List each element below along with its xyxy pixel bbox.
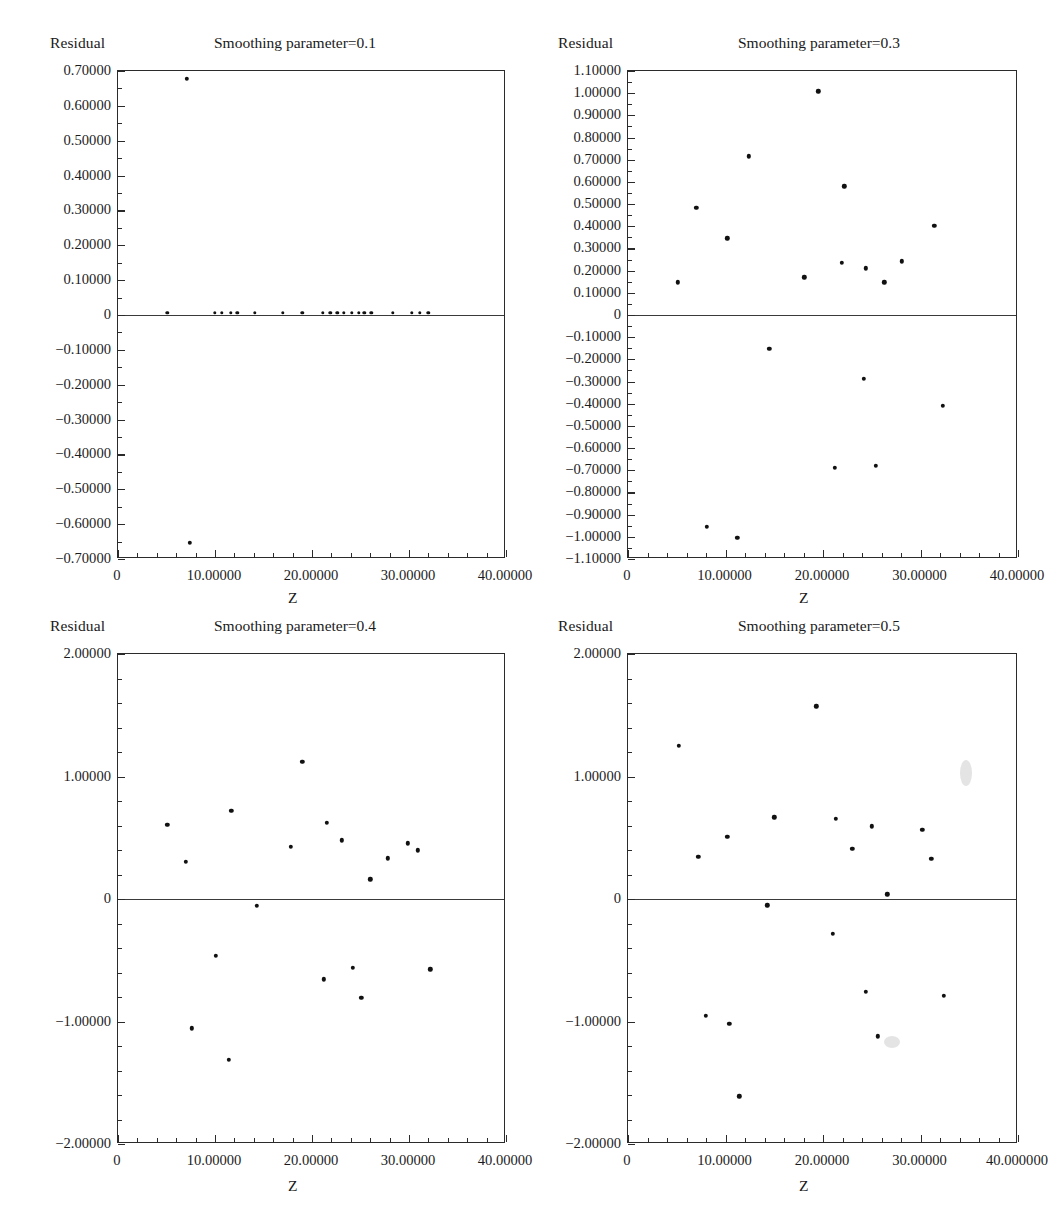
y-tick-label: 2.00000 [0, 645, 111, 662]
y-minor-tick [628, 193, 632, 194]
y-axis-title-1: Residual [558, 34, 613, 52]
x-minor-tick [487, 1138, 488, 1142]
y-minor-tick [628, 215, 632, 216]
data-point [696, 855, 700, 859]
y-minor-tick [118, 158, 122, 159]
y-tick [628, 470, 635, 471]
y-minor-tick [118, 193, 122, 194]
x-minor-tick [960, 1138, 961, 1142]
x-minor-tick [979, 1138, 980, 1142]
x-minor-tick [862, 1138, 863, 1142]
y-minor-tick [628, 82, 632, 83]
y-tick-label: 1.00000 [0, 767, 111, 784]
y-minor-tick [118, 402, 122, 403]
x-minor-tick [882, 553, 883, 557]
y-minor-tick [628, 679, 632, 680]
y-minor-tick [118, 123, 122, 124]
y-tick-label: 0.30000 [0, 201, 111, 218]
x-minor-tick [428, 1138, 429, 1142]
y-tick [118, 899, 125, 900]
data-point [929, 856, 933, 860]
y-tick-label: 1.10000 [524, 62, 621, 79]
x-tick [506, 1135, 507, 1142]
y-minor-tick [118, 472, 122, 473]
x-tick [823, 1135, 824, 1142]
x-tick [1018, 1135, 1019, 1142]
y-tick [118, 454, 125, 455]
data-point [428, 967, 432, 971]
x-minor-tick [137, 553, 138, 557]
data-point [300, 760, 304, 764]
y-tick [628, 337, 635, 338]
y-tick [118, 315, 125, 316]
data-point [705, 525, 709, 529]
y-minor-tick [628, 752, 632, 753]
y-tick-label: −0.10000 [0, 340, 111, 357]
y-minor-tick [628, 997, 632, 998]
x-tick [215, 1135, 216, 1142]
data-point [255, 904, 259, 908]
y-tick [118, 141, 125, 142]
x-minor-tick [862, 553, 863, 557]
y-tick [628, 1022, 635, 1023]
y-minor-tick [118, 437, 122, 438]
chart-panel-0: Residual Smoothing parameter=0.1 Z 0.700… [0, 34, 520, 614]
data-point [942, 994, 946, 998]
x-tick-label: 20.00000 [795, 1152, 850, 1169]
chart-title-1: Smoothing parameter=0.3 [679, 34, 959, 52]
x-minor-tick [648, 1138, 649, 1142]
x-minor-tick [370, 553, 371, 557]
y-minor-tick [628, 459, 632, 460]
y-tick [628, 382, 635, 383]
x-minor-tick [745, 1138, 746, 1142]
y-tick [628, 160, 635, 161]
y-minor-tick [118, 88, 122, 89]
y-tick-label: −0.20000 [0, 375, 111, 392]
y-tick-label: 0.20000 [524, 261, 621, 278]
x-axis-title-0: Z [288, 589, 297, 607]
y-tick-label: 1.00000 [524, 767, 621, 784]
y-tick-label: 0.80000 [524, 128, 621, 145]
x-tick-label: 0 [623, 1152, 630, 1169]
x-minor-tick [390, 553, 391, 557]
x-minor-tick [882, 1138, 883, 1142]
y-minor-tick [628, 504, 632, 505]
y-minor-tick [118, 997, 122, 998]
x-minor-tick [999, 553, 1000, 557]
y-minor-tick [118, 728, 122, 729]
y-tick [118, 420, 125, 421]
x-minor-tick [234, 1138, 235, 1142]
y-tick-label: 0.50000 [524, 195, 621, 212]
y-tick [628, 899, 635, 900]
x-minor-tick [940, 1138, 941, 1142]
x-minor-tick [273, 1138, 274, 1142]
y-tick-label: 0.20000 [0, 236, 111, 253]
zero-reference-line [118, 315, 504, 316]
x-minor-tick [293, 1138, 294, 1142]
y-tick [118, 71, 125, 72]
data-point [816, 89, 820, 93]
data-point [802, 275, 806, 279]
y-tick-label: −0.40000 [524, 394, 621, 411]
y-tick [628, 71, 635, 72]
x-minor-tick [706, 1138, 707, 1142]
y-tick [628, 115, 635, 116]
y-minor-tick [628, 260, 632, 261]
data-point [676, 744, 680, 748]
data-point [885, 892, 889, 896]
y-tick-label: −0.30000 [524, 372, 621, 389]
x-tick [726, 1135, 727, 1142]
x-minor-tick [137, 1138, 138, 1142]
y-tick-label: 1.00000 [524, 84, 621, 101]
x-minor-tick [351, 1138, 352, 1142]
x-minor-tick [157, 1138, 158, 1142]
plot-area-2: 2.000001.000000−1.00000−2.00000 [117, 653, 505, 1143]
y-tick-label: −0.50000 [0, 480, 111, 497]
data-point [772, 815, 776, 819]
x-tick [312, 1135, 313, 1142]
x-minor-tick [196, 1138, 197, 1142]
y-tick-label: 0.90000 [524, 106, 621, 123]
data-point [704, 1014, 708, 1018]
y-minor-tick [628, 1095, 632, 1096]
y-tick [628, 271, 635, 272]
